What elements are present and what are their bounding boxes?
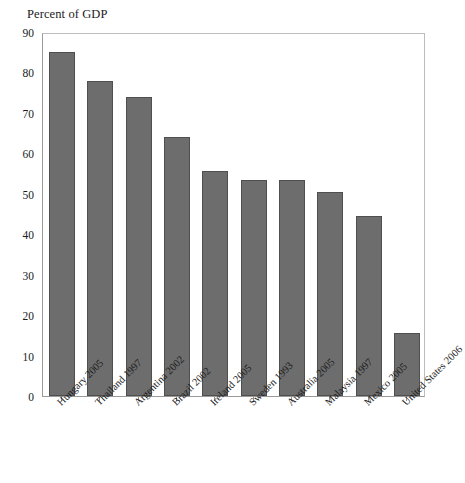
y-axis-tick-label: 50 — [0, 188, 42, 202]
y-axis-tick-label: 0 — [0, 390, 42, 404]
y-axis-tick-label: 20 — [0, 309, 42, 323]
y-axis-tick-value: 10 — [23, 350, 43, 364]
bar — [126, 97, 152, 396]
y-axis-tick-label: 70 — [0, 107, 42, 121]
y-axis-tick-label: 10 — [0, 350, 42, 364]
plot-area — [42, 33, 425, 397]
y-axis-tick-label: 30 — [0, 269, 42, 283]
y-axis-tick-value: 50 — [23, 188, 43, 202]
y-axis-tick-value: 40 — [23, 228, 43, 242]
bar — [202, 171, 228, 396]
chart-title: Percent of GDP — [27, 7, 108, 22]
y-axis-tick-label: 60 — [0, 147, 42, 161]
y-axis-tick-value: 20 — [23, 309, 43, 323]
y-axis-tick-value: 70 — [23, 107, 43, 121]
y-axis-tick-value: 80 — [23, 66, 43, 80]
y-axis-tick-value: 60 — [23, 147, 43, 161]
y-axis-tick-label: 90 — [0, 26, 42, 40]
y-axis-tick-label: 80 — [0, 66, 42, 80]
y-axis-tick-label: 40 — [0, 228, 42, 242]
bar — [49, 52, 75, 396]
bar — [87, 81, 113, 396]
bar-series — [43, 34, 424, 396]
y-axis-tick-value: 90 — [23, 26, 43, 40]
y-axis-tick-value: 30 — [23, 269, 43, 283]
y-axis-tick-value: 0 — [28, 390, 42, 404]
